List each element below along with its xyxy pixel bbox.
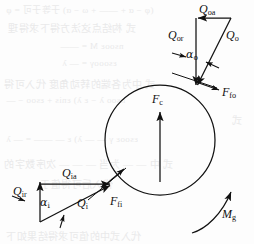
q-ia-label: Qia bbox=[62, 167, 77, 181]
q-oa-label: Qoa bbox=[199, 3, 215, 17]
q-o-label: Qo bbox=[226, 29, 239, 43]
f-fi-label: Ffi bbox=[110, 195, 122, 209]
alpha-o-left-tick bbox=[172, 53, 186, 57]
f-c-label: Fc bbox=[152, 93, 163, 107]
f-fi-arrow bbox=[104, 169, 124, 186]
alpha-i-label: αi bbox=[40, 197, 50, 209]
free-body-diagram bbox=[0, 0, 254, 244]
alpha-o-label: αo bbox=[186, 49, 198, 61]
q-i-label: Qi bbox=[77, 197, 88, 211]
outer-contact-tangent bbox=[172, 73, 217, 88]
q-or-label: Qor bbox=[168, 29, 183, 43]
m-g-label: Mg bbox=[222, 208, 236, 222]
q-ir-label: Qir bbox=[13, 185, 27, 199]
f-fo-arrow bbox=[196, 82, 219, 90]
q-i-arrow bbox=[40, 186, 110, 223]
figure-canvas: (φ − α + —— + ω − α) 于等于可 = φ式 构结点这法方得下求… bbox=[0, 0, 254, 244]
alpha-i-lower-tick bbox=[60, 215, 64, 228]
f-fo-label: Ffo bbox=[222, 86, 236, 100]
